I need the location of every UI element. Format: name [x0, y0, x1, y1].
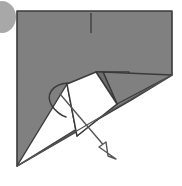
origami-figure-canvas	[0, 0, 182, 186]
origami-diagram	[0, 0, 182, 186]
